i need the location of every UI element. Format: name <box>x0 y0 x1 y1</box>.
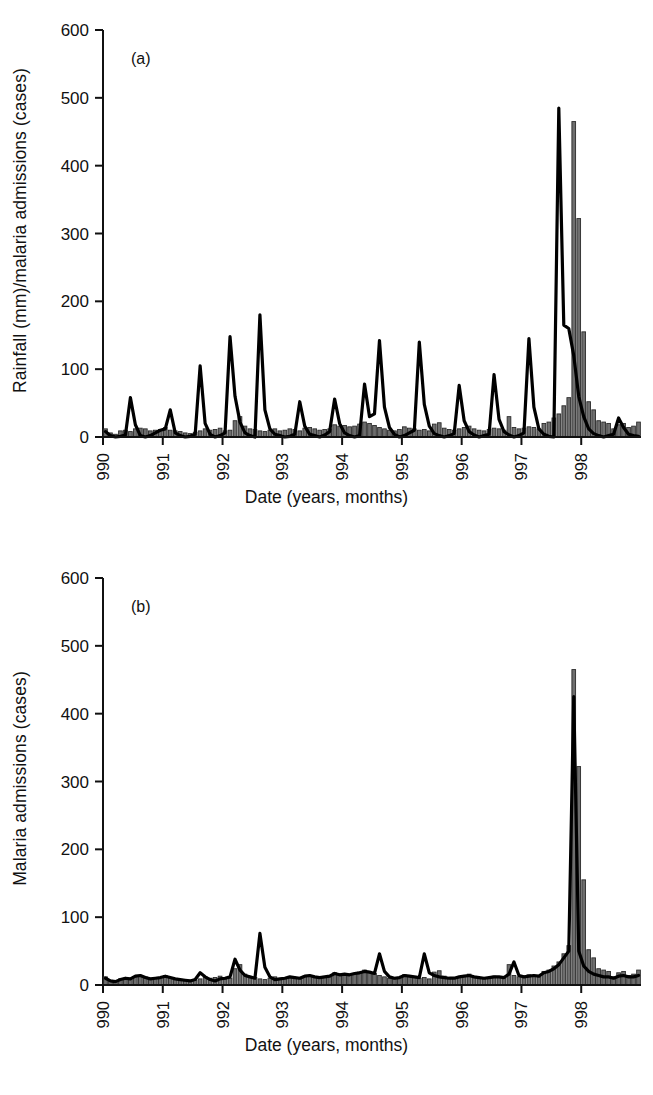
bar <box>422 978 426 985</box>
y-tick-label: 100 <box>61 908 89 927</box>
bar <box>592 958 596 985</box>
bar <box>417 430 421 437</box>
x-tick-label: 1994 <box>333 1001 351 1028</box>
x-tick-label: 1998 <box>572 1001 590 1028</box>
bar <box>462 428 466 437</box>
y-tick-label: 300 <box>61 225 89 244</box>
bar <box>517 977 521 985</box>
x-tick-label: 1991 <box>154 1001 172 1028</box>
x-tick-label: 1993 <box>273 453 291 480</box>
x-tick-label: 1994 <box>333 453 351 480</box>
bar <box>383 977 387 985</box>
line-series <box>105 697 638 982</box>
bar <box>602 422 606 437</box>
x-tick-label: 1993 <box>273 1001 291 1028</box>
bar <box>388 978 392 985</box>
bar-series <box>104 670 641 985</box>
y-tick-label: 400 <box>61 157 89 176</box>
bar <box>373 425 377 437</box>
x-axis-label-a: Date (years, months) <box>0 487 653 508</box>
bar <box>228 430 232 437</box>
plot-area-b: (b)0100200300400500600199019911992199319… <box>0 548 653 1028</box>
x-tick-label: 1998 <box>572 453 590 480</box>
bar <box>502 978 506 985</box>
y-tick-label: 0 <box>80 428 89 447</box>
bar <box>567 398 571 437</box>
bar <box>572 122 576 437</box>
bar <box>422 430 426 437</box>
bar <box>323 978 327 985</box>
bar <box>622 971 626 985</box>
line-series <box>105 108 638 437</box>
bar <box>353 974 357 985</box>
bar <box>228 978 232 985</box>
plot-area-a: (a)0100200300400500600199019911992199319… <box>0 0 653 480</box>
bar <box>383 429 387 437</box>
x-tick-label: 1995 <box>393 1001 411 1028</box>
panel-tag: (b) <box>131 598 151 615</box>
chart-panel-a: Rainfall (mm)/malaria admissions (cases)… <box>0 0 653 547</box>
bar <box>457 429 461 437</box>
x-tick-label: 1997 <box>512 453 530 480</box>
y-tick-label: 400 <box>61 705 89 724</box>
x-tick-label: 1997 <box>512 1001 530 1028</box>
bar <box>363 422 367 437</box>
x-tick-label: 1996 <box>453 1001 471 1028</box>
x-tick-label: 1991 <box>154 453 172 480</box>
bar <box>168 430 172 437</box>
y-tick-label: 500 <box>61 89 89 108</box>
x-tick-label: 1995 <box>393 453 411 480</box>
panel-tag: (a) <box>131 50 151 67</box>
bar <box>318 978 322 985</box>
y-tick-label: 200 <box>61 840 89 859</box>
x-tick-label: 1992 <box>214 1001 232 1028</box>
bar <box>233 421 237 437</box>
bar <box>368 423 372 437</box>
x-tick-label: 1996 <box>453 453 471 480</box>
x-tick-label: 1990 <box>94 453 112 480</box>
bar <box>532 428 536 437</box>
x-tick-label: 1990 <box>94 1001 112 1028</box>
bar <box>497 429 501 437</box>
bar <box>512 976 516 985</box>
bar <box>492 428 496 437</box>
y-tick-label: 100 <box>61 360 89 379</box>
y-tick-label: 600 <box>61 21 89 40</box>
y-tick-label: 600 <box>61 569 89 588</box>
bar <box>537 977 541 985</box>
x-axis-label-b: Date (years, months) <box>0 1035 653 1056</box>
bar <box>233 969 237 985</box>
bar <box>557 414 561 437</box>
y-tick-label: 0 <box>80 976 89 995</box>
x-tick-label: 1992 <box>214 453 232 480</box>
chart-panel-b: Malaria admissions (cases) (b)0100200300… <box>0 548 653 1095</box>
bar <box>378 428 382 437</box>
bar <box>333 425 337 437</box>
figure: Rainfall (mm)/malaria admissions (cases)… <box>0 0 653 1095</box>
bar <box>417 978 421 985</box>
y-tick-label: 300 <box>61 773 89 792</box>
bar <box>637 970 641 985</box>
bar <box>328 977 332 985</box>
bar <box>562 406 566 437</box>
bar <box>587 950 591 985</box>
y-tick-label: 500 <box>61 637 89 656</box>
y-tick-label: 200 <box>61 292 89 311</box>
bar <box>527 427 531 437</box>
bar <box>378 976 382 985</box>
bar <box>373 973 377 985</box>
